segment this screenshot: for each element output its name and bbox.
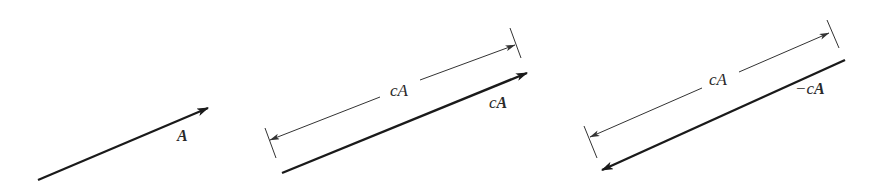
dimension-tick-right	[827, 20, 839, 48]
dimension-label-ca: cA	[390, 81, 409, 100]
vector-ca-label: cA	[489, 93, 508, 112]
dimension-label-ca: cA	[709, 70, 728, 89]
dimension-arrow-right	[739, 33, 829, 72]
dimension-tick-left	[265, 128, 276, 158]
dimension-arrow-left	[270, 97, 380, 140]
panel-vector-ca: cA cA	[265, 28, 527, 173]
vector-a-label: A	[176, 127, 188, 144]
vector-neg-ca-label: −cA	[795, 79, 825, 98]
panel-vector-a: A	[38, 108, 208, 180]
dimension-tick-right	[510, 28, 521, 58]
vector-a-arrow	[38, 108, 208, 180]
dimension-arrow-left	[590, 88, 702, 137]
vector-scaling-diagram: A cA cA cA −cA	[0, 0, 880, 189]
panel-vector-neg-ca: cA −cA	[584, 20, 845, 170]
dimension-arrow-right	[420, 45, 515, 80]
dimension-tick-left	[584, 126, 597, 158]
